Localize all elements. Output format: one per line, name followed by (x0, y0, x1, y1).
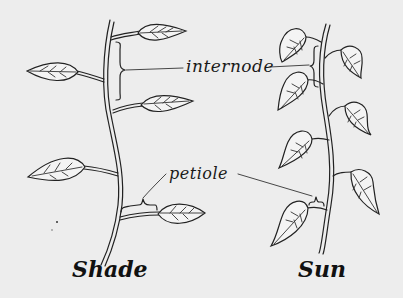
sun-leaf-2 (325, 46, 362, 78)
shade-petiole-bracket (121, 199, 157, 212)
petiole-leader-left (143, 174, 166, 198)
petiole-label: petiole (169, 166, 228, 182)
sun-leaf-1 (280, 29, 321, 62)
sun-leaf-5 (279, 131, 329, 168)
sun-leaf-4 (329, 102, 371, 135)
internode-leader-right (270, 65, 309, 67)
sun-caption: Sun (298, 258, 346, 280)
shade-sun-plant-diagram: internode petiole Shade Sun (0, 0, 403, 298)
plant-illustration (0, 0, 403, 298)
sun-leaf-3 (278, 72, 323, 110)
sun-leaf-7 (271, 201, 327, 246)
speck (51, 229, 52, 230)
internode-label: internode (186, 58, 274, 75)
shade-plant (27, 20, 205, 266)
shade-internode-brace (116, 42, 125, 100)
speck (56, 221, 58, 223)
petiole-leader-right (238, 174, 312, 196)
shade-leaf-2 (27, 63, 104, 82)
sun-plant (271, 24, 379, 254)
shade-leaf-4 (28, 158, 118, 180)
shade-leaf-1 (111, 24, 186, 40)
shade-leaf-3 (113, 95, 193, 113)
shade-caption: Shade (72, 258, 148, 280)
internode-leader-left (126, 68, 183, 70)
sun-leaf-6 (333, 170, 379, 214)
shade-leaf-5 (120, 204, 205, 223)
sun-petiole-bracket (309, 197, 324, 206)
